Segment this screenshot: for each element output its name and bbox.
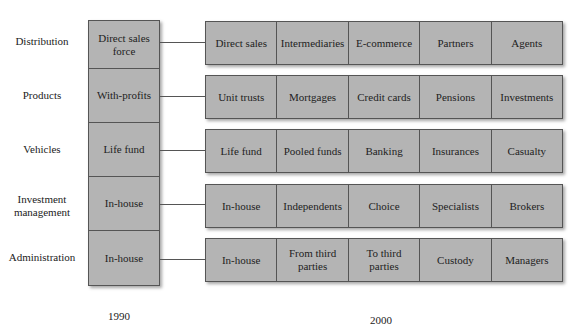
cell-2000: Partners <box>419 22 490 64</box>
cell-2000: Banking <box>348 130 419 172</box>
connector-line <box>159 150 205 151</box>
cell-2000: In-house <box>206 185 276 227</box>
column-1990: Direct sales force With-profits Life fun… <box>88 20 160 286</box>
cell-2000: Life fund <box>206 130 276 172</box>
row-2000-products: Unit trusts Mortgages Credit cards Pensi… <box>205 75 563 119</box>
row-2000-administration: In-house From third parties To third par… <box>205 238 563 282</box>
row-label-distribution: Distribution <box>0 35 84 48</box>
year-label-2000: 2000 <box>370 314 392 326</box>
row-2000-distribution: Direct sales Intermediaries E-commerce P… <box>205 21 563 65</box>
cell-1990-distribution: Direct sales force <box>89 21 159 68</box>
cell-2000: Direct sales <box>206 22 276 64</box>
cell-1990-administration: In-house <box>89 230 159 285</box>
row-2000-investment-management: In-house Independents Choice Specialists… <box>205 184 563 228</box>
cell-2000: In-house <box>206 239 276 281</box>
row-2000-vehicles: Life fund Pooled funds Banking Insurance… <box>205 129 563 173</box>
cell-2000: Specialists <box>419 185 490 227</box>
cell-2000: Agents <box>491 22 562 64</box>
cell-1990-products: With-profits <box>89 68 159 122</box>
connector-line <box>159 42 205 43</box>
row-label-products: Products <box>0 89 84 102</box>
cell-2000: Pooled funds <box>276 130 347 172</box>
cell-1990-investment-management: In-house <box>89 176 159 230</box>
year-label-1990: 1990 <box>108 310 130 322</box>
cell-2000: Casualty <box>491 130 562 172</box>
cell-2000: Intermediaries <box>276 22 347 64</box>
cell-1990-vehicles: Life fund <box>89 122 159 176</box>
row-label-investment-management: Investment management <box>0 193 84 219</box>
cell-2000: E-commerce <box>348 22 419 64</box>
cell-2000: Mortgages <box>276 76 347 118</box>
cell-2000: Credit cards <box>348 76 419 118</box>
cell-2000: Investments <box>491 76 562 118</box>
cell-2000: Pensions <box>419 76 490 118</box>
row-label-administration: Administration <box>0 251 84 264</box>
cell-2000: Independents <box>276 185 347 227</box>
cell-2000: From third parties <box>276 239 347 281</box>
cell-2000: Managers <box>491 239 562 281</box>
cell-2000: Brokers <box>491 185 562 227</box>
connector-line <box>159 96 205 97</box>
row-label-vehicles: Vehicles <box>0 143 84 156</box>
cell-2000: Unit trusts <box>206 76 276 118</box>
cell-2000: Choice <box>348 185 419 227</box>
cell-2000: Insurances <box>419 130 490 172</box>
cell-2000: To third parties <box>348 239 419 281</box>
cell-2000: Custody <box>419 239 490 281</box>
connector-line <box>159 204 205 205</box>
connector-line <box>159 259 205 260</box>
